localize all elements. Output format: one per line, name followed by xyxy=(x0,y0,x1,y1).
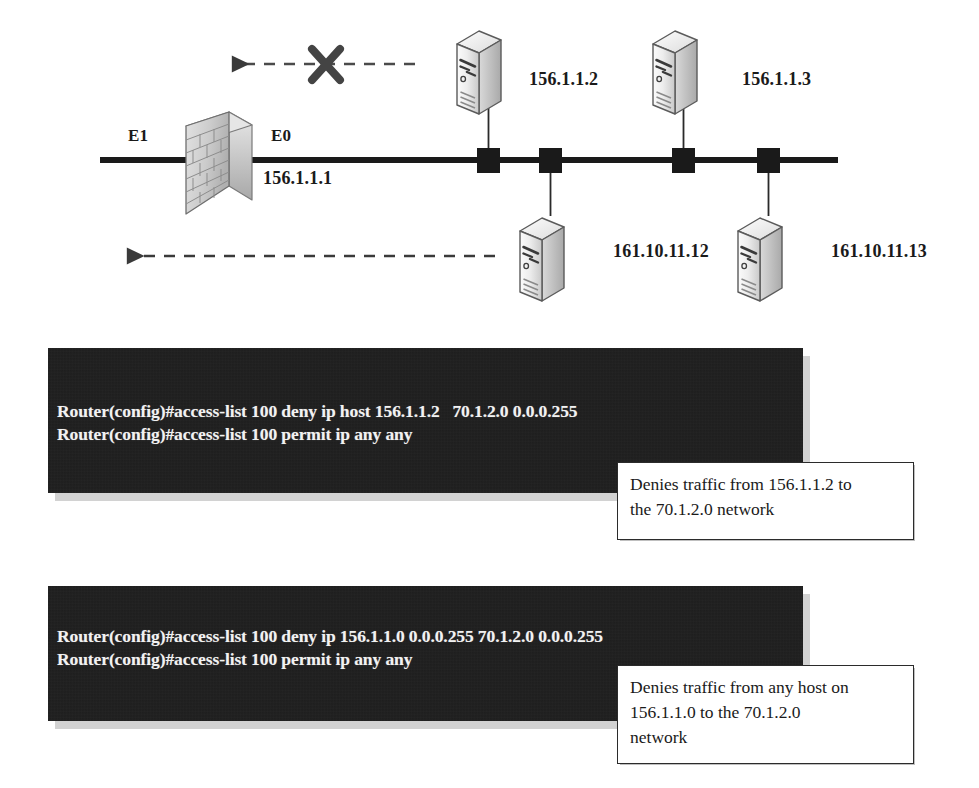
brick-wall-firewall-icon xyxy=(186,112,252,214)
callout-network-acl: Denies traffic from any host on 156.1.1.… xyxy=(617,665,914,764)
router-interface-ip-label: 156.1.1.1 xyxy=(263,168,332,189)
x-block-icon xyxy=(312,49,340,80)
cli-command-line: Router(config)#access-list 100 permit ip… xyxy=(57,648,412,671)
topology-canvas xyxy=(0,0,979,330)
bus-tap-connector xyxy=(539,148,562,173)
server-label-156-1-1-2: 156.1.1.2 xyxy=(529,69,598,90)
callout-text: Denies traffic from 156.1.1.2 to the 70.… xyxy=(618,463,913,528)
callout-host-acl: Denies traffic from 156.1.1.2 to the 70.… xyxy=(617,462,914,540)
server-icon xyxy=(457,31,501,114)
server-label-161-10-11-13: 161.10.11.13 xyxy=(831,241,927,262)
interface-label-e0: E0 xyxy=(271,126,291,146)
server-label-156-1-1-3: 156.1.1.3 xyxy=(742,69,811,90)
server-label-161-10-11-12: 161.10.11.12 xyxy=(613,241,709,262)
acl-diagram-page: E1 E0 156.1.1.1 156.1.1.2 156.1.1.3 161.… xyxy=(0,0,979,788)
bus-tap-connector xyxy=(477,148,500,173)
cli-command-line: Router(config)#access-list 100 permit ip… xyxy=(57,423,412,446)
server-icon xyxy=(738,218,782,301)
bus-tap-connector xyxy=(672,148,695,173)
cli-command-line: Router(config)#access-list 100 deny ip h… xyxy=(57,400,578,423)
interface-label-e1: E1 xyxy=(128,126,148,146)
network-topology-diagram: E1 E0 156.1.1.1 156.1.1.2 156.1.1.3 161.… xyxy=(0,0,979,330)
cli-command-line: Router(config)#access-list 100 deny ip 1… xyxy=(57,625,603,648)
server-icon xyxy=(520,218,564,301)
server-icon xyxy=(653,31,697,114)
callout-text: Denies traffic from any host on 156.1.1.… xyxy=(618,666,913,756)
bus-tap-connector xyxy=(757,148,780,173)
